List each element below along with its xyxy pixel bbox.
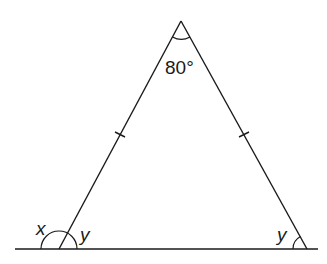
left-interior-angle-label-y: y (78, 224, 91, 245)
exterior-angle-label-x: x (35, 218, 47, 239)
triangle-diagram: 80° x y y (0, 0, 327, 264)
right-interior-angle-label-y: y (275, 224, 288, 245)
left-vertex-semicircle-arc (41, 231, 77, 249)
apex-angle-arc (173, 37, 191, 39)
right-vertex-angle-arc (293, 237, 301, 250)
apex-angle-label: 80° (165, 57, 194, 78)
